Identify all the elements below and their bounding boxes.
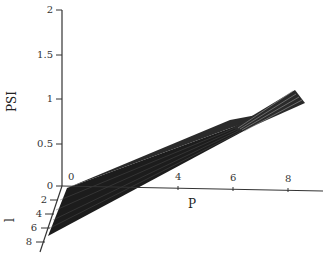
psi-tick-2: 2 — [47, 4, 53, 15]
l-tick-6: 6 — [31, 222, 37, 233]
psi-tick-0: 0 — [47, 180, 53, 191]
psi-tick-0-5: 0.5 — [37, 138, 53, 149]
p-tick-6: 6 — [230, 172, 236, 183]
l-tick-8: 8 — [26, 236, 32, 247]
surface-plot: 2 1.5 1 0.5 0 PSI 0 4 6 8 P 2 4 6 8 l — [0, 0, 325, 259]
psi-axis-label: PSI — [5, 91, 19, 112]
p-axis-label: P — [188, 197, 196, 211]
p-tick-8: 8 — [285, 173, 291, 184]
psi-tick-1: 1 — [47, 93, 53, 104]
p-tick-4: 4 — [175, 171, 181, 182]
l-tick-4: 4 — [36, 208, 42, 219]
l-tick-2: 2 — [41, 194, 47, 205]
surface — [48, 90, 305, 236]
l-axis-label: l — [3, 218, 17, 222]
p-tick-0: 0 — [68, 171, 74, 182]
psi-tick-1-5: 1.5 — [37, 49, 53, 60]
